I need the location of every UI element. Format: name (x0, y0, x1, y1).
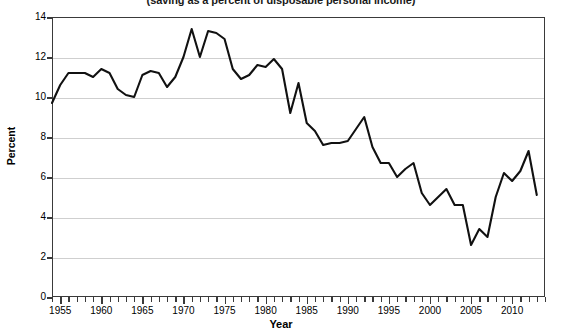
y-tick-label: 0 (16, 292, 46, 302)
x-tick-minor (126, 297, 127, 302)
x-tick-major (225, 297, 226, 304)
x-tick-minor (446, 297, 447, 302)
y-tick-label: 12 (16, 52, 46, 62)
x-tick-minor (118, 297, 119, 302)
x-tick-minor (241, 297, 242, 302)
x-tick-major (348, 297, 349, 304)
x-tick-label: 1985 (287, 305, 327, 316)
x-tick-label: 1995 (369, 305, 409, 316)
x-tick-label: 1960 (81, 305, 121, 316)
x-tick-major (471, 297, 472, 304)
x-tick-minor (487, 297, 488, 302)
x-tick-minor (290, 297, 291, 302)
x-tick-minor (463, 297, 464, 302)
x-tick-minor (340, 297, 341, 302)
chart-subtitle: (saving as a percent of disposable perso… (0, 0, 562, 6)
x-tick-major (101, 297, 102, 304)
x-tick-minor (151, 297, 152, 302)
y-tick-label: 6 (16, 172, 46, 182)
x-tick-minor (422, 297, 423, 302)
x-tick-label: 1970 (163, 305, 203, 316)
x-tick-minor (257, 297, 258, 302)
x-tick-minor (52, 297, 53, 302)
x-tick-minor (405, 297, 406, 302)
x-tick-minor (331, 297, 332, 302)
x-tick-major (183, 297, 184, 304)
x-tick-minor (110, 297, 111, 302)
x-tick-minor (134, 297, 135, 302)
x-tick-label: 1975 (205, 305, 245, 316)
x-tick-minor (414, 297, 415, 302)
x-tick-minor (200, 297, 201, 302)
x-tick-label: 1990 (328, 305, 368, 316)
x-tick-minor (323, 297, 324, 302)
x-tick-major (389, 297, 390, 304)
x-tick-minor (175, 297, 176, 302)
x-tick-minor (159, 297, 160, 302)
x-tick-minor (455, 297, 456, 302)
x-tick-minor (479, 297, 480, 302)
x-tick-minor (537, 297, 538, 302)
y-axis-label: Percent (5, 111, 17, 181)
x-tick-minor (397, 297, 398, 302)
x-tick-minor (299, 297, 300, 302)
x-tick-major (142, 297, 143, 304)
x-tick-minor (249, 297, 250, 302)
x-tick-major (512, 297, 513, 304)
x-tick-label: 2005 (451, 305, 491, 316)
x-tick-minor (545, 297, 546, 302)
x-tick-minor (216, 297, 217, 302)
x-tick-label: 1980 (246, 305, 286, 316)
x-tick-minor (438, 297, 439, 302)
x-tick-major (266, 297, 267, 304)
x-tick-minor (520, 297, 521, 302)
x-tick-minor (274, 297, 275, 302)
x-tick-minor (93, 297, 94, 302)
x-tick-label: 1965 (122, 305, 162, 316)
x-tick-minor (496, 297, 497, 302)
x-tick-label: 2010 (492, 305, 532, 316)
x-tick-minor (529, 297, 530, 302)
x-tick-minor (372, 297, 373, 302)
x-tick-minor (85, 297, 86, 302)
x-tick-minor (282, 297, 283, 302)
data-series-layer (52, 17, 545, 297)
x-tick-minor (364, 297, 365, 302)
x-tick-major (60, 297, 61, 304)
chart-root: (saving as a percent of disposable perso… (0, 0, 562, 335)
x-tick-minor (233, 297, 234, 302)
x-tick-minor (504, 297, 505, 302)
y-tick-label: 4 (16, 212, 46, 222)
x-tick-label: 1955 (40, 305, 80, 316)
x-tick-minor (315, 297, 316, 302)
x-tick-label: 2000 (410, 305, 450, 316)
x-tick-major (430, 297, 431, 304)
y-tick-label: 10 (16, 92, 46, 102)
x-tick-minor (356, 297, 357, 302)
saving-rate-line (52, 29, 537, 245)
x-tick-minor (167, 297, 168, 302)
y-tick-label: 8 (16, 132, 46, 142)
x-tick-minor (381, 297, 382, 302)
x-tick-minor (77, 297, 78, 302)
x-tick-minor (68, 297, 69, 302)
y-tick-label: 14 (16, 12, 46, 22)
x-tick-major (307, 297, 308, 304)
x-tick-minor (192, 297, 193, 302)
y-tick-label: 2 (16, 252, 46, 262)
x-tick-minor (208, 297, 209, 302)
x-axis-label: Year (0, 318, 562, 330)
